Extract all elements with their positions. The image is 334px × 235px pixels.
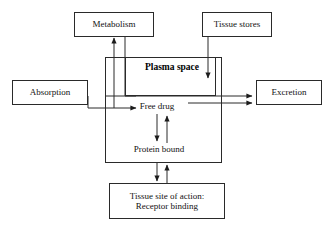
excretion-label: Excretion xyxy=(272,87,307,97)
plasma-space-title: Plasma space xyxy=(130,62,214,72)
absorption-label: Absorption xyxy=(30,87,71,97)
diagram-canvas: Plasma space Free drug Protein bound Met… xyxy=(0,0,334,235)
protein-bound-label: Protein bound xyxy=(113,144,205,154)
tissue-site-of-action-label: Tissue site of action: Receptor binding xyxy=(130,191,204,211)
tissue-site-of-action-box: Tissue site of action: Receptor binding xyxy=(109,183,225,219)
tissue-stores-label: Tissue stores xyxy=(214,19,260,29)
tissue-stores-box: Tissue stores xyxy=(202,12,272,37)
absorption-box: Absorption xyxy=(12,80,88,105)
metabolism-box: Metabolism xyxy=(74,12,154,37)
free-drug-label: Free drug xyxy=(117,101,197,111)
excretion-box: Excretion xyxy=(256,80,322,105)
metabolism-label: Metabolism xyxy=(93,19,136,29)
